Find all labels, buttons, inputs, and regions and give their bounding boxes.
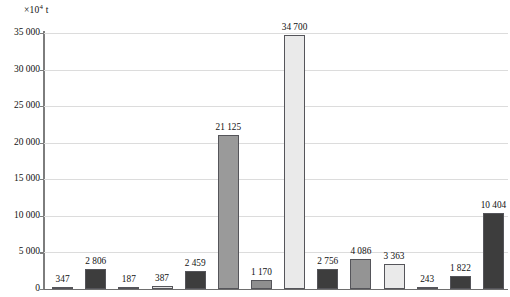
bar[interactable]: [317, 269, 338, 289]
bar-value-label: 21 125: [207, 123, 249, 132]
bar[interactable]: [152, 286, 173, 289]
y-axis-tick-label: 35 000: [14, 28, 40, 38]
bar-value-label: 347: [41, 275, 83, 284]
bar[interactable]: [118, 287, 139, 289]
y-axis-tick-label: 20 000: [14, 138, 40, 148]
bar-value-label: 2 756: [307, 257, 349, 266]
bar-value-label: 2 459: [174, 259, 216, 268]
y-axis-tick-label: 15 000: [14, 174, 40, 184]
bar-value-label: 1 170: [240, 268, 282, 277]
bar-value-label: 3 363: [373, 252, 415, 261]
bar[interactable]: [350, 259, 371, 289]
bars-layer: 3472 8061873872 45921 1251 17034 7002 75…: [44, 0, 508, 297]
bar[interactable]: [483, 213, 504, 289]
y-axis-tick-labels: 05 00010 00015 00020 00025 00030 00035 0…: [0, 0, 40, 297]
y-axis-tick-label: 10 000: [14, 211, 40, 221]
y-axis-tick-label: 5 000: [19, 247, 40, 257]
bar[interactable]: [218, 135, 239, 290]
bar-value-label: 243: [406, 275, 448, 284]
bar-value-label: 10 404: [472, 201, 510, 210]
bar[interactable]: [185, 271, 206, 289]
bar[interactable]: [85, 269, 106, 290]
bar-chart: ×104 t 05 00010 00015 00020 00025 00030 …: [0, 0, 510, 297]
bar-value-label: 2 806: [75, 257, 117, 266]
bar-value-label: 387: [141, 274, 183, 283]
bar[interactable]: [284, 35, 305, 289]
bar-value-label: 1 822: [439, 264, 481, 273]
bar-value-label: 34 700: [273, 23, 315, 32]
bar[interactable]: [417, 287, 438, 289]
y-axis-tick-label: 25 000: [14, 101, 40, 111]
bar[interactable]: [450, 276, 471, 289]
y-axis-tick-label: 30 000: [14, 65, 40, 75]
bar[interactable]: [384, 264, 405, 289]
bar[interactable]: [52, 287, 73, 290]
bar[interactable]: [251, 280, 272, 289]
y-axis-tick-label: 0: [35, 284, 40, 294]
